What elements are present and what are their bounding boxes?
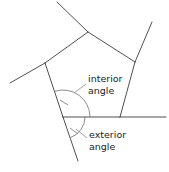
top-right-edge: [88, 32, 135, 62]
interior-angle-label-line1: interior: [88, 73, 123, 84]
upper-right-ray: [135, 22, 152, 62]
top-left-edge: [45, 32, 88, 63]
exterior-angle-label-line1: exterior: [89, 129, 126, 140]
exterior-angle-label-line2: angle: [89, 141, 126, 153]
interior-angle-label: interior angle: [88, 73, 123, 96]
upper-left-ray: [10, 63, 45, 83]
geometry-canvas: [0, 0, 169, 172]
exterior-angle-label: exterior angle: [89, 129, 126, 152]
exterior-tick: [70, 128, 78, 134]
top-left-ray: [57, 2, 88, 32]
left-edge-ray: [63, 117, 78, 161]
interior-angle-label-line2: angle: [88, 85, 123, 97]
interior-tick: [60, 100, 68, 105]
interior-angle-arc: [55, 90, 90, 117]
interior-leader-line: [74, 84, 86, 93]
geometry-diagram: interior angle exterior angle: [0, 0, 169, 172]
